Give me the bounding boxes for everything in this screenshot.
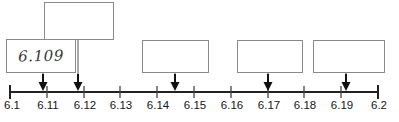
- tick-label-6.2: 6.2: [371, 99, 387, 111]
- number-line-figure: 6.109: [0, 0, 399, 122]
- tick-label-6.15: 6.15: [184, 99, 206, 111]
- tick-label-6.16: 6.16: [221, 99, 243, 111]
- tick-label-6.11: 6.11: [37, 99, 59, 111]
- tick-label-6.18: 6.18: [294, 99, 316, 111]
- tick-label-6.12: 6.12: [74, 99, 96, 111]
- arrow-marker-5: [342, 74, 351, 91]
- tick-label-6.14: 6.14: [147, 99, 169, 111]
- arrow-marker-2: [74, 74, 83, 91]
- arrow-marker-4: [264, 74, 273, 91]
- tick-label-6.19: 6.19: [331, 99, 353, 111]
- arrow-marker-1: [39, 74, 48, 91]
- tick-label-6.13: 6.13: [110, 99, 132, 111]
- tick-label-6.1: 6.1: [4, 99, 20, 111]
- arrow-marker-3: [171, 74, 180, 91]
- tick-label-6.17: 6.17: [258, 99, 280, 111]
